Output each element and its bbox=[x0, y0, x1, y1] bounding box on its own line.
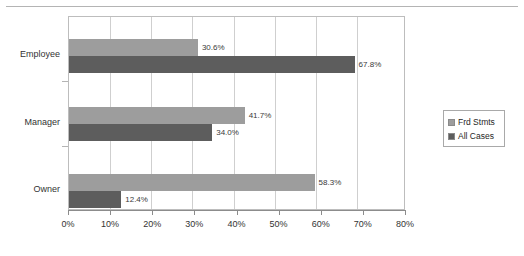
x-axis-tick bbox=[152, 210, 153, 215]
chart-figure: Employee Manager Owner 30.6% 67.8% 41.7%… bbox=[0, 0, 524, 256]
legend-item-frd-stmts: Frd Stmts bbox=[448, 115, 500, 129]
gridline-60 bbox=[316, 17, 317, 209]
x-axis-tick bbox=[279, 210, 280, 215]
bar-value-manager-frd-stmts: 41.7% bbox=[249, 107, 272, 124]
bar-value-manager-all-cases: 34.0% bbox=[216, 124, 239, 141]
bar-employee-frd-stmts bbox=[69, 39, 198, 56]
x-axis-tick-label: 10% bbox=[90, 219, 130, 229]
bar-manager-frd-stmts bbox=[69, 107, 245, 124]
legend-label-frd-stmts: Frd Stmts bbox=[458, 117, 495, 127]
chart-legend: Frd Stmts All Cases bbox=[443, 110, 505, 147]
bar-owner-all-cases bbox=[69, 191, 121, 208]
bar-value-owner-all-cases: 12.4% bbox=[125, 191, 148, 208]
gridline-70 bbox=[357, 17, 358, 209]
plot-area: 30.6% 67.8% 41.7% 34.0% 58.3% 12.4% bbox=[68, 16, 405, 210]
x-axis-tick bbox=[68, 210, 69, 215]
x-axis-tick-label: 70% bbox=[343, 219, 383, 229]
x-axis-tick bbox=[363, 210, 364, 215]
y-axis-label-0: Employee bbox=[0, 49, 60, 59]
bar-owner-frd-stmts bbox=[69, 174, 315, 191]
y-axis-label-2: Owner bbox=[0, 184, 60, 194]
legend-swatch-icon bbox=[448, 133, 455, 140]
x-axis-tick-label: 80% bbox=[385, 219, 425, 229]
x-axis-tick-label: 60% bbox=[301, 219, 341, 229]
x-axis-tick bbox=[110, 210, 111, 215]
bar-value-employee-all-cases: 67.8% bbox=[359, 56, 382, 73]
legend-item-all-cases: All Cases bbox=[448, 129, 500, 143]
bar-manager-all-cases bbox=[69, 124, 212, 141]
top-divider bbox=[6, 6, 518, 7]
bar-employee-all-cases bbox=[69, 56, 355, 73]
x-axis-tick-label: 50% bbox=[259, 219, 299, 229]
x-axis-tick bbox=[194, 210, 195, 215]
x-axis-tick-label: 40% bbox=[217, 219, 257, 229]
bar-value-owner-frd-stmts: 58.3% bbox=[319, 174, 342, 191]
x-axis-tick bbox=[237, 210, 238, 215]
x-axis-tick-label: 0% bbox=[48, 219, 88, 229]
legend-label-all-cases: All Cases bbox=[458, 131, 494, 141]
x-axis-tick-label: 30% bbox=[174, 219, 214, 229]
legend-swatch-icon bbox=[448, 119, 455, 126]
x-axis-tick bbox=[321, 210, 322, 215]
x-axis-tick bbox=[405, 210, 406, 215]
x-axis-tick-label: 20% bbox=[132, 219, 172, 229]
bar-value-employee-frd-stmts: 30.6% bbox=[202, 39, 225, 56]
y-axis-label-1: Manager bbox=[0, 117, 60, 127]
